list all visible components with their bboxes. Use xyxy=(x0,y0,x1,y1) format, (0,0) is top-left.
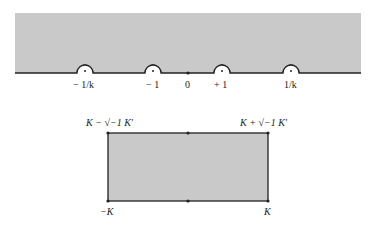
point-neg-inv-k xyxy=(84,70,86,72)
upper-half-plane xyxy=(15,13,361,75)
label-inv-k: 1/k xyxy=(284,80,297,90)
point-zero xyxy=(186,71,189,74)
label-zero: 0 xyxy=(185,80,190,90)
point-inv-k xyxy=(290,70,292,72)
label-bottom-right-corner: K xyxy=(264,207,271,217)
point-pos-one xyxy=(221,70,223,72)
conformal-map-diagram xyxy=(0,0,375,227)
label-top-left-corner: K − √−1 K′ xyxy=(86,118,133,128)
point-neg-one xyxy=(152,70,154,72)
label-neg-inv-k: − 1/k xyxy=(73,80,94,90)
label-pos-one: + 1 xyxy=(214,80,227,90)
label-bottom-left-corner: −K xyxy=(100,207,113,217)
label-neg-one: − 1 xyxy=(146,80,159,90)
label-top-right-corner: K + √−1 K′ xyxy=(240,118,287,128)
period-rectangle xyxy=(106,131,269,202)
